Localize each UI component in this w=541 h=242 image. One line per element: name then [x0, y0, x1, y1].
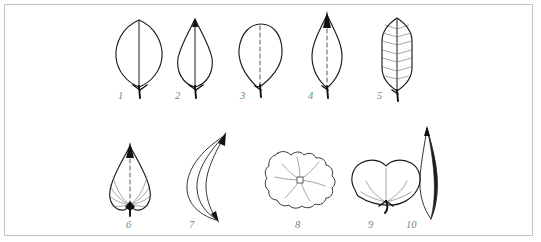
- specimen-3-obovate: [239, 24, 282, 97]
- leaf-7-edge-inner: [206, 137, 224, 218]
- leaf-7-edge-mid: [197, 136, 224, 219]
- specimen-10-linear-acicular: [420, 126, 437, 219]
- leaf-3-outline: [239, 24, 282, 87]
- leaf-2-petiole: [195, 86, 196, 98]
- specimen-2-ovate: [178, 18, 213, 98]
- specimen-8-orbicular-peltate: [265, 152, 335, 209]
- leaf-3-label: 3: [239, 90, 245, 101]
- leaf-2-label: 2: [175, 90, 181, 101]
- leaf-4-label: 4: [308, 90, 314, 101]
- leaf-7-edge-outer: [187, 136, 224, 220]
- leaf-9-petiole: [385, 201, 387, 213]
- leaf-9-veins: [361, 168, 411, 202]
- specimen-9-reniform: [352, 160, 420, 213]
- leaf-10-apex: [424, 126, 430, 136]
- leaf-shape-figure: 1 2 3 4: [0, 0, 541, 242]
- leaf-1-petiole: [139, 86, 140, 98]
- leaf-plate-drawing: 1 2 3 4: [0, 0, 541, 242]
- specimen-7-falcate: [187, 132, 226, 223]
- leaf-8-label: 8: [295, 219, 301, 230]
- leaf-10-edge-left: [420, 128, 431, 219]
- leaf-3-petiole: [260, 85, 261, 97]
- leaf-5-petiole: [397, 90, 398, 101]
- leaf-7-label: 7: [189, 219, 195, 230]
- leaf-6-label: 6: [126, 219, 132, 230]
- leaf-8-petiole-attachment: [297, 177, 303, 183]
- specimen-6-cordate: [109, 142, 151, 216]
- leaf-1-label: 1: [118, 90, 123, 101]
- specimen-4-rhombic-lanceolate: [312, 11, 342, 98]
- leaf-4-petiole: [327, 86, 328, 98]
- specimen-5-oblong-pinnate: [382, 18, 412, 101]
- specimen-1-elliptic: [116, 20, 162, 98]
- leaf-9-label: 9: [368, 219, 374, 230]
- leaf-5-label: 5: [377, 90, 382, 101]
- leaf-6-apex: [126, 142, 134, 158]
- leaf-10-label: 10: [406, 219, 417, 230]
